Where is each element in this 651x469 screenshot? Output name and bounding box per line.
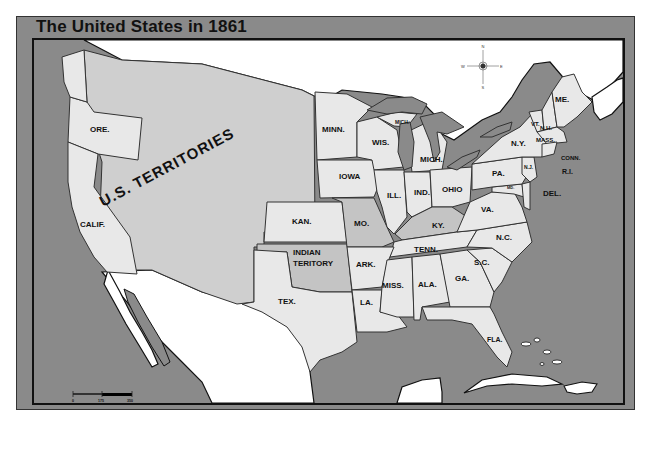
label-pa: PA. xyxy=(492,169,505,178)
washington-coast xyxy=(62,50,87,102)
label-sc: S.C. xyxy=(474,258,490,267)
scale-tick-175: 175 xyxy=(98,399,104,403)
label-nj: N.J. xyxy=(524,164,534,170)
label-va: VA. xyxy=(481,205,494,214)
label-ind: IND. xyxy=(414,188,430,197)
label-ri: R.I. xyxy=(562,168,573,175)
label-minn: MINN. xyxy=(322,125,345,134)
label-wis: WIS. xyxy=(372,138,389,147)
label-vt: VT. xyxy=(531,121,540,127)
label-mich: MICH. xyxy=(420,155,443,164)
label-ga: GA. xyxy=(455,274,469,283)
label-indian-territory-line1: INDIAN xyxy=(293,248,321,257)
label-iowa: IOWA xyxy=(339,172,361,181)
compass-s: S xyxy=(482,85,485,90)
label-del: DEL. xyxy=(543,189,561,198)
state-delaware xyxy=(522,182,530,210)
label-mich-upper: MICH. xyxy=(395,119,410,125)
label-ill: ILL. xyxy=(387,191,401,200)
state-connecticut xyxy=(542,142,557,157)
compass-n: N xyxy=(482,44,485,49)
yucatan-landmass xyxy=(397,378,442,403)
label-ohio: OHIO xyxy=(442,185,462,194)
label-la: LA. xyxy=(360,298,373,307)
label-ala: ALA. xyxy=(418,280,437,289)
map-area: ORE. CALIF. U.S. TERRITORIES MINN. WIS. … xyxy=(32,38,625,405)
label-ore: ORE. xyxy=(90,125,110,134)
label-nh: N.H. xyxy=(540,125,552,131)
label-ark: ARK. xyxy=(356,260,376,269)
label-tenn: TENN. xyxy=(414,245,438,254)
label-md: MD. xyxy=(507,185,514,190)
label-indian-territory-line2: TERITORY xyxy=(293,259,334,268)
bahamas-islands xyxy=(521,338,562,366)
label-mass: MASS. xyxy=(536,137,555,143)
compass-e: E xyxy=(500,64,503,69)
cuba-landmass xyxy=(464,374,562,393)
label-miss: MISS. xyxy=(382,281,404,290)
label-calif: CALIF. xyxy=(80,220,105,229)
us-1861-map: ORE. CALIF. U.S. TERRITORIES MINN. WIS. … xyxy=(34,40,623,403)
map-title: The United States in 1861 xyxy=(36,17,247,37)
label-tex: TEX. xyxy=(278,297,296,306)
scale-tick-350: 350 xyxy=(127,399,133,403)
scale-bar: 0 175 350 xyxy=(72,391,133,403)
scale-tick-0: 0 xyxy=(72,399,74,403)
label-ky: KY. xyxy=(432,221,444,230)
label-nc: N.C. xyxy=(496,233,512,242)
label-conn: CONN. xyxy=(561,155,581,161)
label-ny: N.Y. xyxy=(511,139,526,148)
label-kan: KAN. xyxy=(292,217,312,226)
label-mo: MO. xyxy=(354,219,369,228)
label-me: ME. xyxy=(555,95,569,104)
hispaniola-landmass xyxy=(564,382,597,394)
label-fla: FLA. xyxy=(487,336,503,343)
compass-w: W xyxy=(461,64,465,69)
